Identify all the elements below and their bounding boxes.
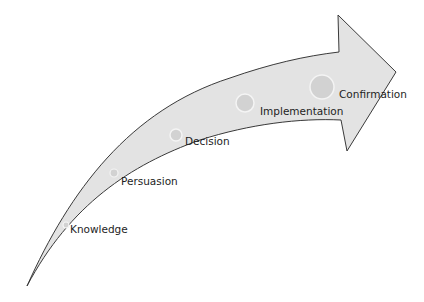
stage-label-implementation: Implementation: [260, 106, 343, 117]
curved-arrow: [0, 0, 424, 302]
stage-marker-knowledge: [63, 222, 69, 228]
arrow-shape: [27, 15, 396, 286]
stage-label-confirmation: Confirmation: [339, 89, 407, 100]
stage-label-decision: Decision: [185, 136, 230, 147]
diffusion-stages-diagram: Knowledge Persuasion Decision Implementa…: [0, 0, 424, 302]
stage-label-knowledge: Knowledge: [70, 224, 128, 235]
stage-marker-decision: [170, 129, 182, 141]
stage-marker-persuasion: [110, 169, 118, 177]
stage-marker-implementation: [236, 94, 254, 112]
stage-label-persuasion: Persuasion: [121, 176, 178, 187]
stage-marker-confirmation: [310, 75, 334, 99]
